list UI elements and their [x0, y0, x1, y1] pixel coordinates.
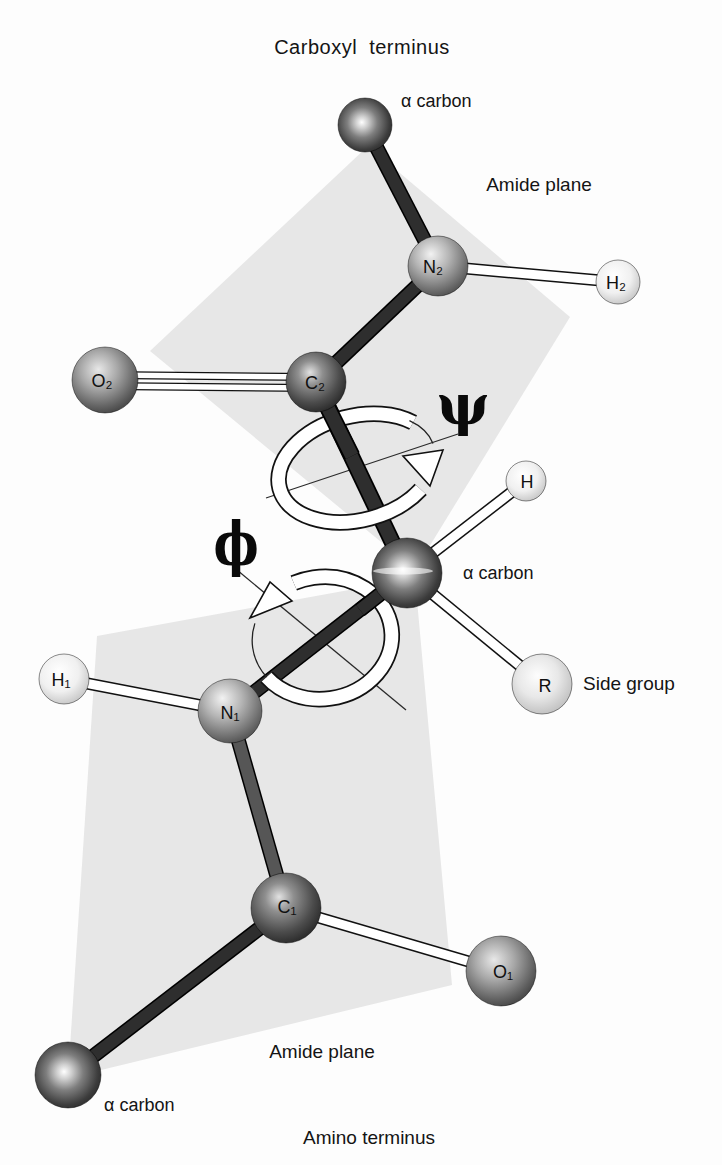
amino-terminus-caption: Amino terminus: [303, 1127, 435, 1148]
peptide-backbone-diagram: N₂ H₂ O₂ C₂ H R H₁ N₁ C₁ O₁ Carboxyl ter…: [0, 0, 722, 1165]
amide-plane-label-bottom: Amide plane: [269, 1041, 375, 1062]
phi-symbol-group: ϕ: [213, 509, 258, 580]
phi-symbol: ϕ: [213, 509, 258, 580]
atom-label-c2: C₂: [305, 373, 325, 393]
atom-label-n2: N₂: [423, 257, 443, 277]
amide-plane-label-top: Amide plane: [486, 174, 592, 195]
amide-plane-top-shape: [150, 146, 570, 570]
alpha-carbon-highlight: [373, 568, 433, 575]
atom-label-h: H: [521, 472, 534, 492]
atom-alpha-carbon-top: [338, 98, 392, 152]
atom-label-o2: O₂: [92, 371, 113, 391]
alpha-carbon-label-bottom: α carbon: [104, 1095, 174, 1115]
side-group-label: Side group: [583, 673, 675, 694]
atom-label-n1: N₁: [220, 703, 239, 723]
carboxyl-terminus-caption: Carboxyl terminus: [274, 36, 450, 58]
atom-label-h2: H₂: [606, 273, 626, 293]
alpha-carbon-label-top: α carbon: [401, 91, 471, 111]
atom-alpha-carbon-bottom: [35, 1042, 101, 1108]
alpha-carbon-label-middle: α carbon: [463, 563, 533, 583]
psi-symbol: ψ: [437, 371, 490, 437]
atom-label-c1: C₁: [277, 897, 296, 917]
atom-label-o1: O₁: [493, 962, 513, 982]
figure-canvas: N₂ H₂ O₂ C₂ H R H₁ N₁ C₁ O₁ Carboxyl ter…: [0, 0, 722, 1165]
atom-label-r: R: [539, 676, 552, 696]
atom-label-h1: H₁: [51, 670, 70, 690]
